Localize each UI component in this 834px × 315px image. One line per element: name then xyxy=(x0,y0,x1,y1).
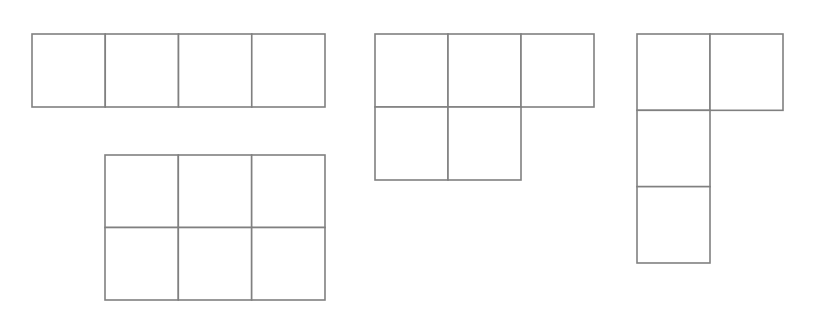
grid-cell[interactable] xyxy=(178,155,251,228)
grid-cell[interactable] xyxy=(178,228,251,301)
rectangle-two-by-three[interactable]: 2 by 3 rectangle xyxy=(105,155,325,300)
grid-cell[interactable] xyxy=(637,187,710,263)
grid-cell[interactable] xyxy=(637,110,710,186)
grid-cell[interactable] xyxy=(252,155,325,228)
grid-cell[interactable] xyxy=(105,155,178,228)
grid-cell[interactable] xyxy=(252,228,325,301)
worksheet-canvas: 1 by 4 horizontal strip2 by 3 rectangleP… xyxy=(0,0,834,315)
grid-cell[interactable] xyxy=(179,34,252,107)
grid-cell[interactable] xyxy=(448,34,521,107)
grid-cell[interactable] xyxy=(637,34,710,110)
i-tetromino-horizontal-strip[interactable]: 1 by 4 horizontal strip xyxy=(32,34,325,107)
grid-cell[interactable] xyxy=(105,34,178,107)
grid-cell[interactable] xyxy=(375,34,448,107)
grid-cell[interactable] xyxy=(710,34,783,110)
grid-cell[interactable] xyxy=(375,107,448,180)
grid-cell[interactable] xyxy=(521,34,594,107)
grid-cell[interactable] xyxy=(252,34,325,107)
grid-cell[interactable] xyxy=(105,228,178,301)
polyomino-figures-svg: 1 by 4 horizontal strip2 by 3 rectangleP… xyxy=(0,0,834,315)
grid-cell[interactable] xyxy=(32,34,105,107)
p-pentomino[interactable]: P pentomino: top row of three, bottom ro… xyxy=(375,34,594,180)
grid-cell[interactable] xyxy=(448,107,521,180)
l-tetromino-vertical[interactable]: L tetromino: vertical column of three wi… xyxy=(637,34,783,263)
